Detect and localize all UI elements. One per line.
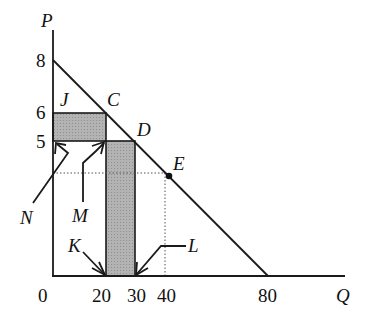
origin-label: 0	[38, 285, 48, 306]
label-n: N	[19, 207, 34, 228]
y-tick-6: 6	[36, 102, 46, 123]
label-d: D	[136, 119, 151, 140]
arrow-n	[33, 143, 68, 203]
x-tick-80: 80	[258, 285, 277, 306]
y-tick-8: 8	[36, 50, 46, 71]
y-axis-label: P	[40, 10, 53, 31]
shaded-area-kl	[106, 141, 135, 276]
label-l: L	[187, 235, 199, 256]
demand-line	[53, 60, 268, 276]
x-tick-40: 40	[157, 285, 176, 306]
arrow-k	[83, 252, 105, 275]
x-tick-30: 30	[127, 285, 146, 306]
arrow-m	[83, 142, 104, 202]
x-axis-label: Q	[336, 285, 350, 306]
label-m: M	[71, 205, 89, 226]
label-e: E	[172, 153, 185, 174]
label-j: J	[60, 89, 70, 110]
y-tick-5: 5	[36, 131, 46, 152]
x-tick-20: 20	[92, 285, 111, 306]
point-e-marker	[166, 173, 173, 180]
label-k: K	[67, 235, 82, 256]
arrow-l	[136, 246, 186, 275]
shaded-area-j	[53, 113, 106, 141]
economics-diagram: P Q 0 8 6 5 20 30 40 80 J C D E N M K L	[0, 0, 369, 320]
label-c: C	[107, 89, 120, 110]
